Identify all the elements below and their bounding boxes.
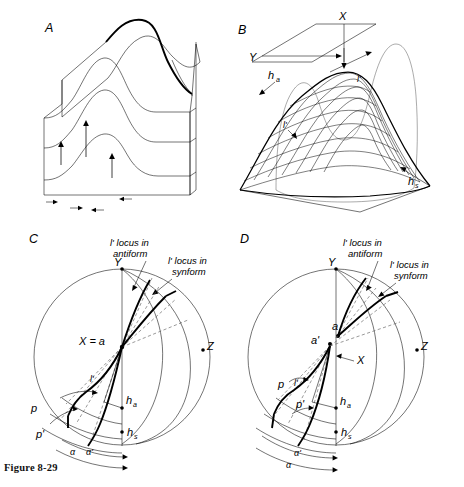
panel-c-label-Y: Y [114, 256, 122, 268]
panel-c-label-alpha-prime: α' [86, 447, 93, 457]
panel-b-lp-upper-arrow [330, 54, 368, 72]
panel-c-label-hs-group: h s [127, 426, 138, 440]
uplift-arrow-2-head [83, 120, 89, 126]
panel-c-label-Z: Z [206, 340, 215, 352]
figure-8-29: A [0, 0, 464, 487]
panel-b-ha-arrow [263, 82, 275, 92]
uplift-arrow-1-head [58, 141, 64, 147]
panel-d-label-ha: h [340, 395, 346, 407]
panel-c-p-arc [60, 391, 94, 398]
right-face-layer-1 [190, 108, 196, 112]
panel-c-annotation-synform: l' locus in synform [152, 255, 207, 295]
layer-trace-1 [44, 58, 190, 118]
basal-arrow-group [46, 197, 132, 212]
panel-d-label-pp: p' [295, 398, 305, 410]
panel-d-label-Z: Z [420, 340, 429, 352]
front-face-outline [44, 112, 190, 195]
panel-c-label-pp: p' [35, 428, 45, 440]
panel-d-label-a: a [332, 320, 338, 332]
right-face-layer-2 [190, 138, 196, 142]
panel-b-label-ha-sub: a [276, 76, 280, 83]
panel-d-label-a-prime: a' [311, 334, 320, 346]
panel-c-label-ha-sub: a [133, 401, 137, 408]
panel-b-label-hs: h [408, 175, 414, 187]
panel-d-anno-antiform-arrow [366, 285, 372, 291]
panel-c-anno-synform-line1: l' locus in [168, 255, 207, 266]
panel-d-alpha-arc-2-head [333, 467, 338, 472]
panel-b-y-arrow-head [336, 53, 342, 58]
panel-b-label-ha-group: h a [268, 69, 280, 83]
panel-d-locus-antiform [338, 278, 366, 336]
uplift-arrow-3-head [109, 153, 115, 159]
panel-d-label-Y: Y [328, 256, 336, 268]
panel-c-anno-synform-leader [156, 279, 172, 292]
panel-d-locus-synform-tip [386, 292, 398, 296]
panel-d-anno-synform-line2: synform [394, 270, 428, 281]
panel-c-alpha-arc-1-head [123, 454, 128, 459]
panel-d-anno-synform-arrow [378, 291, 385, 297]
figure-caption: Figure 8-29 [4, 462, 58, 473]
panel-d-letter: D [240, 232, 249, 246]
panel-c-small-circle-2 [50, 414, 122, 439]
panel-c-label-hs-sub: s [134, 433, 138, 440]
panel-b-label-X: X [338, 10, 347, 22]
top-surface-left-edge [62, 42, 106, 80]
panel-d-label-alpha-prime: α' [294, 448, 301, 458]
panel-b-base-frame [240, 186, 430, 212]
panel-d-x-arrow-head [336, 354, 342, 359]
reference-plane-frame [252, 24, 376, 62]
panel-c-locus-antiform [122, 280, 150, 347]
panel-b-label-Y: Y [249, 51, 257, 63]
figure-canvas: A [0, 0, 464, 487]
panel-c-anno-antiform-arrow [132, 285, 138, 291]
panel-d-label-alpha: α [286, 460, 292, 470]
right-face-layer-3 [190, 172, 196, 176]
panel-a: A [44, 20, 200, 212]
panel-d-small-circle-2 [264, 414, 336, 439]
panel-c-letter: C [29, 232, 39, 246]
left-top-corner-edge [44, 80, 62, 118]
panel-c-alpha-arc-2-head [123, 465, 128, 470]
panel-b: B X Y h a l' l' [238, 10, 430, 212]
panel-c-great-circle-1 [122, 269, 190, 444]
panel-b-hs-arrow-head [400, 167, 407, 172]
panel-c-p-arc-head [92, 390, 98, 395]
panel-c-label-hs: h [127, 426, 133, 438]
panel-d-x-arrow [340, 357, 354, 361]
panel-a-letter: A [44, 21, 53, 35]
panel-b-label-hs-group: h s [408, 175, 419, 189]
panel-b-letter: B [238, 23, 246, 37]
panel-b-ha-arrow-head [259, 89, 265, 95]
top-surface-right-flank [172, 60, 192, 94]
basal-arrow-2-head [78, 206, 83, 210]
uplift-arrow-group [58, 120, 115, 178]
basal-arrow-3-head [91, 208, 96, 212]
basal-arrow-1-head [53, 200, 58, 204]
panel-c-locus-synform-tip [166, 291, 176, 296]
panel-c-label-ha: h [126, 394, 132, 406]
panel-d-great-circle-1 [336, 269, 404, 444]
panel-c-locus-synform [122, 296, 166, 347]
fold-hinge-trace-bold [106, 20, 192, 94]
panel-b-label-hs-sub: s [415, 182, 419, 189]
panel-c-anno-synform-line2: synform [172, 266, 206, 277]
panel-c-anno-antiform-line1: l' locus in [110, 237, 149, 248]
block-top-back-edge [62, 36, 200, 117]
panel-d-anno-antiform-leader [368, 261, 378, 287]
panel-d-label-lp: l' [294, 378, 298, 388]
panel-c-label-Xa: X = a [78, 335, 105, 347]
layer-trace-3 [44, 134, 190, 180]
basal-arrow-4-head [119, 197, 124, 201]
panel-d-label-hs-group: h s [341, 426, 352, 440]
panel-d-label-hs-sub: s [348, 433, 352, 440]
panel-d-anno-synform-line1: l' locus in [390, 259, 429, 270]
panel-d-label-p: p [277, 378, 284, 390]
panel-d-anno-antiform-line2: antiform [348, 248, 382, 259]
panel-d-label-hs: h [341, 426, 347, 438]
mesh-longitudinal-lines [254, 73, 420, 182]
panel-c-point-Z [201, 348, 205, 352]
panel-c: C l' locus in antiform l' locus in synfo… [29, 232, 215, 471]
panel-d-alpha-arc-1-head [333, 455, 338, 460]
panel-d-locus-lower-1-tip [272, 414, 274, 428]
panel-c-label-alpha: α [70, 447, 76, 457]
